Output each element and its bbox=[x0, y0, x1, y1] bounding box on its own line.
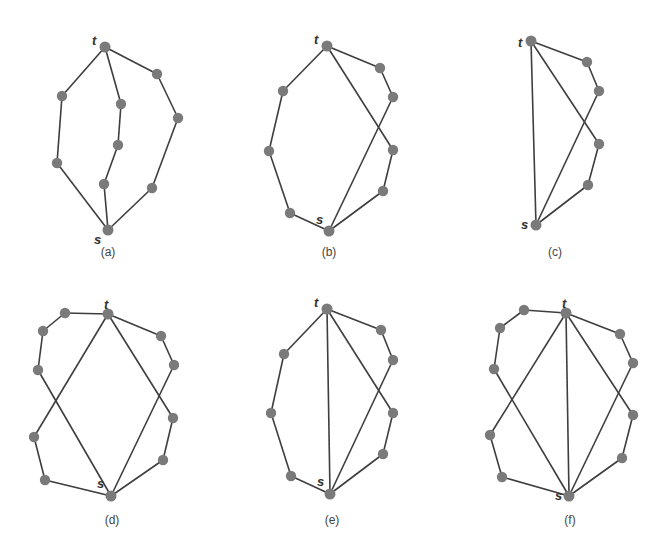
vertex bbox=[168, 413, 178, 423]
vertex bbox=[615, 329, 625, 339]
vertex bbox=[388, 92, 398, 102]
edge-e-t-s bbox=[327, 309, 330, 494]
vertex bbox=[594, 86, 604, 96]
edge-c-c1-c2 bbox=[588, 144, 599, 185]
edge-a-a2-s bbox=[57, 163, 108, 230]
edge-c-t-b1 bbox=[531, 41, 587, 62]
edge-d-a2-a3 bbox=[38, 331, 43, 370]
source-label: s bbox=[521, 217, 528, 232]
panel-c: (c) ts bbox=[518, 35, 604, 259]
vertex bbox=[147, 183, 157, 193]
edges-b bbox=[269, 46, 393, 231]
nodes-e bbox=[266, 304, 398, 500]
edge-f-t-c1 bbox=[566, 313, 633, 415]
edge-e-b2-s bbox=[330, 360, 393, 494]
vertex bbox=[583, 180, 593, 190]
edge-a-b1-b2 bbox=[118, 104, 121, 145]
edge-c-t-c1 bbox=[531, 41, 599, 144]
vertex bbox=[376, 325, 386, 335]
vertex bbox=[286, 471, 296, 481]
vertex bbox=[33, 365, 43, 375]
vertex bbox=[152, 69, 162, 79]
edge-f-d1-d2 bbox=[490, 435, 502, 477]
vertex bbox=[582, 57, 592, 67]
edge-c-c2-s bbox=[536, 185, 588, 225]
edge-b-a1-a2 bbox=[269, 91, 283, 151]
vertex bbox=[52, 158, 62, 168]
vertex bbox=[628, 358, 638, 368]
vertex bbox=[264, 146, 274, 156]
edge-f-a2-a3 bbox=[494, 328, 500, 369]
edge-b-a2-a3 bbox=[269, 151, 290, 213]
edge-a-a1-a2 bbox=[57, 96, 62, 163]
vertex bbox=[169, 360, 179, 370]
panel-b: (b) ts bbox=[264, 32, 398, 259]
source-vertex bbox=[106, 491, 117, 502]
edge-e-t-b1 bbox=[327, 309, 381, 330]
vertex bbox=[60, 308, 70, 318]
panel-f: (f) ts bbox=[485, 296, 638, 527]
sink-label: t bbox=[92, 33, 97, 48]
vertex bbox=[116, 99, 126, 109]
edges-c bbox=[531, 41, 599, 225]
edge-e-c2-s bbox=[330, 454, 383, 494]
vertex bbox=[617, 453, 627, 463]
vertex bbox=[29, 432, 39, 442]
vertex bbox=[375, 63, 385, 73]
sink-vertex bbox=[526, 36, 537, 47]
caption-b: (b) bbox=[322, 245, 337, 259]
sink-vertex bbox=[322, 304, 333, 315]
caption-f: (f) bbox=[564, 513, 575, 527]
caption-e: (e) bbox=[325, 513, 340, 527]
sink-label: t bbox=[314, 295, 319, 310]
vertex bbox=[378, 449, 388, 459]
edge-d-t-a1 bbox=[65, 313, 108, 314]
source-label: s bbox=[97, 476, 104, 491]
vertex bbox=[266, 408, 276, 418]
vertex bbox=[57, 91, 67, 101]
edges-d bbox=[34, 313, 174, 496]
edge-f-t-b1 bbox=[566, 313, 620, 334]
edge-f-c2-s bbox=[569, 458, 622, 496]
vertex bbox=[485, 430, 495, 440]
edge-e-a1-a2 bbox=[271, 354, 284, 413]
caption-c: (c) bbox=[548, 245, 562, 259]
edge-c-t-s bbox=[531, 41, 536, 225]
edge-a-c3-s bbox=[108, 188, 152, 230]
edge-a-c1-c2 bbox=[157, 74, 178, 118]
edge-e-c1-c2 bbox=[383, 413, 393, 454]
edge-e-a2-a3 bbox=[271, 413, 291, 476]
edge-a-b3-s bbox=[104, 184, 108, 230]
source-vertex bbox=[324, 226, 335, 237]
vertex bbox=[278, 86, 288, 96]
vertex bbox=[495, 323, 505, 333]
vertex bbox=[285, 208, 295, 218]
vertex bbox=[378, 186, 388, 196]
edge-f-t-s bbox=[566, 313, 569, 496]
sink-label: t bbox=[104, 297, 109, 312]
vertex bbox=[99, 179, 109, 189]
vertex bbox=[113, 140, 123, 150]
edge-a-t-b1 bbox=[105, 47, 121, 104]
graph-figure: (a) ts (b) ts (c) ts (d) ts (e) ts (f) t… bbox=[0, 0, 669, 553]
nodes-f bbox=[485, 305, 638, 502]
nodes-a bbox=[52, 42, 183, 236]
vertex bbox=[388, 145, 398, 155]
edge-b-b2-s bbox=[329, 97, 393, 231]
panel-a: (a) ts bbox=[52, 33, 183, 259]
edge-b-t-b1 bbox=[327, 46, 380, 68]
edge-a-c2-c3 bbox=[152, 118, 178, 188]
edge-b-c1-c2 bbox=[383, 150, 393, 191]
edge-f-c1-c2 bbox=[622, 415, 633, 458]
source-label: s bbox=[94, 232, 101, 247]
vertex bbox=[173, 113, 183, 123]
vertex bbox=[279, 349, 289, 359]
edge-c-b2-s bbox=[536, 91, 599, 225]
edge-b-c2-s bbox=[329, 191, 383, 231]
vertex bbox=[594, 139, 604, 149]
edge-d-d1-d2 bbox=[34, 437, 45, 480]
vertex bbox=[156, 331, 166, 341]
source-label: s bbox=[316, 212, 323, 227]
sink-label: t bbox=[562, 296, 567, 311]
vertex bbox=[497, 472, 507, 482]
